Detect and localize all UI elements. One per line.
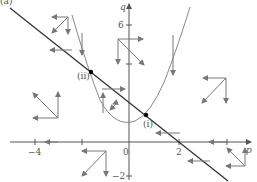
corner-label: (a) — [0, 0, 12, 6]
equilibrium-label-i: (i) — [143, 119, 153, 129]
axes — [10, 4, 251, 180]
q-axis-label: q — [120, 2, 126, 12]
tick-label-6: 6 — [118, 20, 124, 30]
p-axis-label: p — [246, 145, 252, 155]
tick-label-neg4: −4 — [28, 147, 42, 157]
line-curve — [10, 8, 228, 181]
equilibrium-point-i — [144, 113, 148, 117]
tick-label-neg2: −2 — [112, 171, 125, 181]
phase-plane-svg: (a) p q −4 0 2 6 −2 (i) (ii) — [0, 0, 257, 182]
equilibrium-label-ii: (ii) — [77, 71, 90, 81]
parabola-curve — [72, 7, 190, 122]
arrow-icon — [33, 17, 245, 176]
tick-label-0: 0 — [123, 147, 129, 157]
tick-label-2: 2 — [176, 147, 182, 157]
phase-diagram: (a) p q −4 0 2 6 −2 (i) (ii) — [0, 0, 257, 182]
